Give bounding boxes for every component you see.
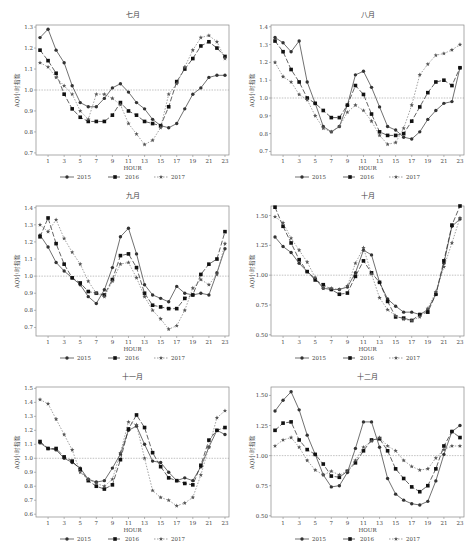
y-tick-label: 0.50 bbox=[256, 332, 269, 338]
y-tick-label: 1.3 bbox=[259, 42, 268, 48]
marker-square bbox=[313, 453, 317, 457]
marker-circle bbox=[119, 235, 122, 238]
marker-circle bbox=[426, 500, 429, 503]
marker-circle bbox=[167, 300, 170, 303]
marker-square bbox=[378, 281, 382, 285]
x-tick-label: 9 bbox=[346, 158, 350, 164]
x-tick-label: 21 bbox=[205, 520, 212, 526]
marker-star bbox=[62, 84, 66, 88]
marker-circle bbox=[199, 86, 202, 89]
marker-star bbox=[86, 279, 90, 283]
x-tick-label: 23 bbox=[456, 339, 463, 345]
legend-label: 2016 bbox=[360, 536, 374, 542]
marker-circle bbox=[354, 73, 357, 76]
marker-circle bbox=[207, 76, 210, 79]
y-tick-label: 1.1 bbox=[24, 441, 33, 447]
marker-square bbox=[159, 465, 163, 469]
y-tick-label: 1.3 bbox=[24, 222, 33, 228]
marker-star bbox=[159, 175, 163, 179]
series-2017 bbox=[38, 397, 227, 507]
marker-square bbox=[54, 447, 58, 451]
marker-circle bbox=[143, 443, 146, 446]
marker-square bbox=[223, 230, 227, 234]
marker-circle bbox=[362, 70, 365, 73]
marker-circle bbox=[370, 420, 373, 423]
y-tick-label: 0.7 bbox=[24, 324, 33, 330]
marker-square bbox=[54, 71, 58, 75]
marker-square bbox=[143, 426, 147, 430]
plot-frame bbox=[36, 387, 229, 517]
x-tick-label: 1 bbox=[281, 339, 285, 345]
marker-circle bbox=[458, 424, 461, 427]
x-tick-label: 23 bbox=[221, 339, 228, 345]
marker-circle bbox=[103, 97, 106, 100]
y-tick-label: 1.00 bbox=[256, 453, 269, 459]
y-tick-label: 0.7 bbox=[24, 150, 33, 156]
x-tick-label: 23 bbox=[221, 520, 228, 526]
x-tick-label: 21 bbox=[440, 158, 447, 164]
marker-circle bbox=[223, 74, 226, 77]
y-tick-label: 1.1 bbox=[24, 66, 33, 72]
marker-circle bbox=[95, 105, 98, 108]
legend-label: 2016 bbox=[360, 174, 374, 180]
marker-circle bbox=[46, 245, 49, 248]
marker-star bbox=[110, 477, 114, 481]
y-tick-label: 1.2 bbox=[259, 59, 268, 65]
marker-circle bbox=[354, 447, 357, 450]
marker-square bbox=[62, 92, 66, 96]
marker-square bbox=[70, 276, 74, 280]
marker-star bbox=[361, 108, 365, 112]
marker-circle bbox=[207, 293, 210, 296]
marker-square bbox=[354, 275, 358, 279]
legend-label: 2017 bbox=[406, 174, 420, 180]
marker-circle bbox=[135, 252, 138, 255]
x-tick-label: 17 bbox=[173, 339, 180, 345]
x-tick-label: 13 bbox=[376, 520, 383, 526]
y-tick-label: 1.00 bbox=[256, 272, 269, 278]
x-tick-label: 11 bbox=[125, 339, 132, 345]
marker-star bbox=[458, 444, 462, 448]
marker-circle bbox=[215, 74, 218, 77]
marker-square bbox=[135, 113, 139, 117]
marker-square bbox=[111, 113, 115, 117]
x-tick-label: 11 bbox=[360, 520, 367, 526]
marker-square bbox=[321, 462, 325, 466]
series-2015 bbox=[273, 390, 461, 507]
marker-star bbox=[191, 495, 195, 499]
marker-circle bbox=[95, 302, 98, 305]
x-tick-label: 23 bbox=[221, 158, 228, 164]
marker-circle bbox=[297, 262, 300, 265]
y-tick-label: 1.0 bbox=[24, 87, 33, 93]
marker-square bbox=[450, 430, 454, 434]
series-2017 bbox=[273, 42, 462, 146]
marker-square bbox=[418, 490, 422, 494]
legend-label: 2016 bbox=[125, 355, 139, 361]
y-tick-label: 1.0 bbox=[259, 95, 268, 101]
x-tick-label: 5 bbox=[78, 339, 82, 345]
marker-circle bbox=[289, 50, 292, 53]
x-tick-label: 19 bbox=[189, 520, 196, 526]
marker-square bbox=[207, 262, 211, 266]
marker-star bbox=[394, 537, 398, 541]
x-tick-label: 19 bbox=[189, 158, 196, 164]
marker-circle bbox=[65, 175, 68, 178]
marker-star bbox=[369, 119, 373, 123]
marker-square bbox=[426, 310, 430, 314]
x-tick-label: 13 bbox=[141, 339, 148, 345]
marker-star bbox=[183, 308, 187, 312]
marker-circle bbox=[65, 537, 68, 540]
marker-square bbox=[70, 107, 74, 111]
marker-circle bbox=[434, 109, 437, 112]
marker-star bbox=[167, 498, 171, 502]
x-tick-label: 13 bbox=[141, 520, 148, 526]
x-tick-label: 21 bbox=[205, 158, 212, 164]
y-tick-label: 1.5 bbox=[24, 385, 33, 391]
plot-frame bbox=[271, 206, 464, 336]
legend-label: 2016 bbox=[360, 355, 374, 361]
marker-circle bbox=[143, 107, 146, 110]
marker-circle bbox=[87, 105, 90, 108]
marker-circle bbox=[119, 82, 122, 85]
x-tick-label: 1 bbox=[281, 520, 285, 526]
series-2017 bbox=[273, 435, 462, 476]
marker-circle bbox=[394, 128, 397, 131]
